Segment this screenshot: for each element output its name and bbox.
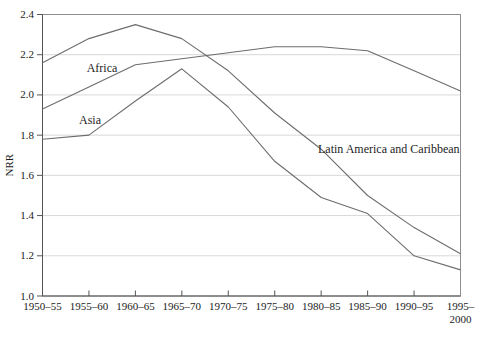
x-tick-label-1: 1955–60 [70, 300, 109, 312]
series-line-africa [43, 47, 461, 109]
series-label-latin-america-and-caribbean: Latin America and Caribbean [318, 142, 460, 156]
x-tick-label-8: 1990–95 [395, 300, 434, 312]
y-tick-label-2.4: 2.4 [20, 8, 34, 20]
x-tick-label-7: 1985–90 [348, 300, 387, 312]
series-label-africa: Africa [87, 61, 118, 75]
y-tick-label-1.8: 1.8 [20, 129, 34, 141]
x-tick-label-9: 1995–2000 [447, 300, 475, 325]
series-label-asia: Asia [79, 113, 102, 127]
y-tick-label-2.0: 2.0 [20, 88, 34, 100]
x-tick-label-0: 1950–55 [23, 300, 62, 312]
nrr-line-chart: 1.01.21.41.61.82.02.22.41950–551955–6019… [0, 0, 483, 337]
nrr-by-region-figure: 1.01.21.41.61.82.02.22.41950–551955–6019… [0, 0, 483, 337]
y-axis-title: NRR [3, 153, 15, 176]
y-tick-label-2.2: 2.2 [20, 48, 34, 60]
x-tick-label-6: 1980–85 [302, 300, 341, 312]
y-tick-label-1.4: 1.4 [20, 209, 34, 221]
series-line-latin-america-and-caribbean [43, 25, 461, 254]
y-tick-label-1.2: 1.2 [20, 249, 34, 261]
series-line-asia [43, 69, 461, 270]
x-tick-label-2: 1960–65 [116, 300, 155, 312]
x-tick-label-3: 1965–70 [163, 300, 202, 312]
x-tick-label-5: 1975–80 [255, 300, 294, 312]
y-tick-label-1.6: 1.6 [20, 169, 34, 181]
x-tick-label-4: 1970–75 [209, 300, 248, 312]
